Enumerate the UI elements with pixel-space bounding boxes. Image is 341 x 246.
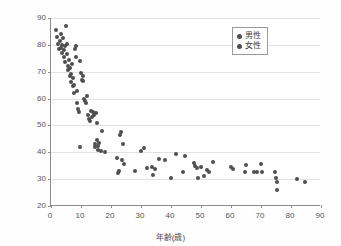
y-tick-label: 50 bbox=[20, 121, 46, 129]
y-tick-label: 30 bbox=[20, 175, 46, 183]
x-tick-mark bbox=[231, 205, 232, 208]
data-point bbox=[77, 110, 81, 114]
data-point bbox=[133, 169, 137, 173]
y-tick-mark bbox=[48, 72, 51, 73]
data-point bbox=[199, 165, 203, 169]
data-point bbox=[174, 152, 178, 156]
x-tick-label: 70 bbox=[256, 212, 265, 220]
data-point bbox=[94, 111, 98, 115]
y-tick-label: 60 bbox=[20, 95, 46, 103]
legend-marker-icon bbox=[237, 34, 242, 39]
data-point bbox=[211, 160, 215, 164]
x-tick-label: 30 bbox=[136, 212, 145, 220]
data-point bbox=[181, 170, 185, 174]
data-point bbox=[70, 62, 74, 66]
data-point bbox=[195, 166, 199, 170]
x-tick-label: 60 bbox=[226, 212, 235, 220]
data-point bbox=[75, 101, 79, 105]
data-point bbox=[95, 121, 99, 125]
y-tick-mark bbox=[48, 99, 51, 100]
data-point bbox=[115, 156, 119, 160]
x-tick-label: 20 bbox=[106, 212, 115, 220]
gridline bbox=[51, 179, 320, 180]
x-tick-mark bbox=[51, 205, 52, 208]
data-point bbox=[72, 83, 76, 87]
data-point bbox=[81, 74, 85, 78]
data-point bbox=[119, 130, 123, 134]
data-point bbox=[54, 28, 58, 32]
data-point bbox=[207, 170, 211, 174]
data-point bbox=[169, 176, 173, 180]
x-tick-mark bbox=[171, 205, 172, 208]
legend[interactable]: 男性 女性 bbox=[232, 27, 268, 55]
gridline bbox=[51, 152, 320, 153]
data-point bbox=[81, 79, 85, 83]
y-tick-label: 70 bbox=[20, 68, 46, 76]
data-point bbox=[183, 154, 187, 158]
data-point bbox=[122, 162, 126, 166]
x-tick-mark bbox=[81, 205, 82, 208]
data-point bbox=[231, 167, 235, 171]
y-tick-label: 80 bbox=[20, 41, 46, 49]
x-tick-label: 40 bbox=[166, 212, 175, 220]
y-tick-mark bbox=[48, 152, 51, 153]
x-tick-mark bbox=[111, 205, 112, 208]
data-point bbox=[151, 173, 155, 177]
x-tick-mark bbox=[201, 205, 202, 208]
data-point bbox=[64, 24, 68, 28]
data-point bbox=[65, 42, 69, 46]
data-point bbox=[153, 167, 157, 171]
x-tick-label: 50 bbox=[196, 212, 205, 220]
data-point bbox=[78, 145, 82, 149]
data-point bbox=[78, 59, 82, 63]
legend-item-female[interactable]: 女性 bbox=[237, 41, 261, 51]
scatter-chart: エネルギー消費量(kcal/kg体重/日) 2030405060708090 0… bbox=[0, 0, 341, 246]
data-point bbox=[157, 157, 161, 161]
data-point bbox=[75, 89, 79, 93]
x-tick-mark bbox=[261, 205, 262, 208]
y-tick-mark bbox=[48, 125, 51, 126]
gridline bbox=[51, 18, 320, 19]
y-tick-label: 90 bbox=[20, 14, 46, 22]
legend-label-female: 女性 bbox=[245, 41, 261, 51]
data-point bbox=[117, 169, 121, 173]
x-tick-label: 10 bbox=[76, 212, 85, 220]
data-point bbox=[103, 150, 107, 154]
data-point bbox=[100, 129, 104, 133]
gridline bbox=[51, 45, 320, 46]
y-axis-title-wrap: エネルギー消費量(kcal/kg体重/日) bbox=[0, 0, 18, 246]
data-point bbox=[259, 162, 263, 166]
data-point bbox=[84, 101, 88, 105]
data-point bbox=[255, 170, 259, 174]
data-point bbox=[88, 119, 92, 123]
x-tick-mark bbox=[141, 205, 142, 208]
x-tick-mark bbox=[321, 205, 322, 208]
data-point bbox=[244, 163, 248, 167]
x-tick-mark bbox=[291, 205, 292, 208]
legend-item-male[interactable]: 男性 bbox=[237, 31, 261, 41]
data-point bbox=[99, 149, 103, 153]
y-tick-label: 40 bbox=[20, 148, 46, 156]
data-point bbox=[275, 188, 279, 192]
data-point bbox=[303, 180, 307, 184]
gridline bbox=[51, 125, 320, 126]
y-tick-mark bbox=[48, 45, 51, 46]
data-point bbox=[202, 174, 206, 178]
gridline bbox=[51, 99, 320, 100]
plot-area bbox=[50, 18, 320, 206]
data-point bbox=[97, 141, 101, 145]
x-tick-label: 90 bbox=[316, 212, 325, 220]
data-point bbox=[260, 170, 264, 174]
data-point bbox=[68, 66, 72, 70]
data-point bbox=[196, 176, 200, 180]
x-tick-label: 0 bbox=[48, 212, 52, 220]
x-tick-label: 80 bbox=[286, 212, 295, 220]
data-point bbox=[85, 94, 89, 98]
data-point bbox=[65, 52, 69, 56]
data-point bbox=[163, 158, 167, 162]
data-point bbox=[145, 166, 149, 170]
data-point bbox=[121, 142, 125, 146]
data-point bbox=[273, 170, 277, 174]
legend-marker-icon bbox=[237, 44, 242, 49]
data-point bbox=[74, 44, 78, 48]
